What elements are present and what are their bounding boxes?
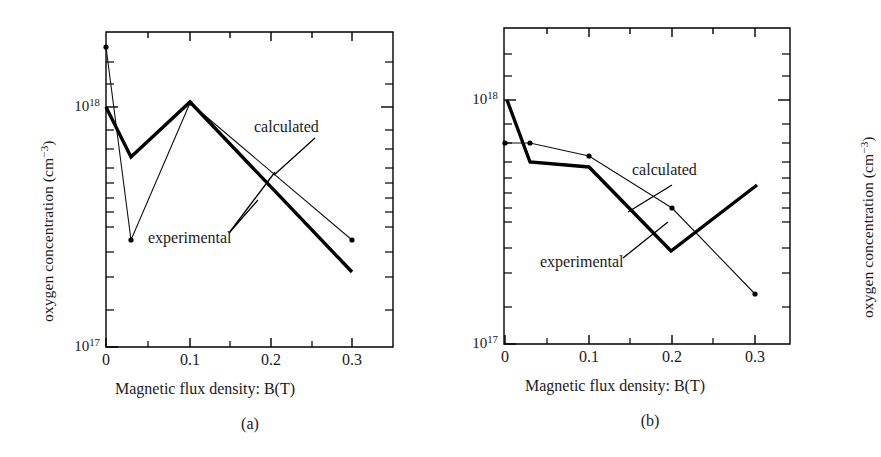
annotation-experimental-b: experimental <box>540 253 624 271</box>
y-tick-label-1e18-a: 1018 <box>44 96 100 115</box>
x-tick-label-01-b: 0.1 <box>567 348 611 366</box>
x-tick-label-0-b: 0 <box>483 348 527 366</box>
x-axis-top-ticks-b <box>547 28 755 37</box>
annotation-calculated-a: calculated <box>254 118 319 136</box>
axis-frame-b <box>504 28 790 344</box>
x-tick-label-01-a: 0.1 <box>168 351 212 369</box>
y-axis-label-b: oxygen concentration (cm−3) <box>858 136 877 318</box>
x-axis-minor-ticks-b <box>547 338 713 344</box>
x-tick-label-03-a: 0.3 <box>330 351 374 369</box>
x-tick-label-0-a: 0 <box>84 351 128 369</box>
series-calculated-line-b <box>505 143 755 294</box>
x-tick-label-03-b: 0.3 <box>733 348 777 366</box>
x-tick-label-02-b: 0.2 <box>650 348 694 366</box>
x-axis-label-b: Magnetic flux density: B(T) <box>410 377 820 395</box>
panel-caption-b: (b) <box>410 412 881 430</box>
y-axis-minor-ticks-right-a <box>385 62 393 310</box>
annotation-calculated-b: calculated <box>632 161 697 179</box>
y-axis-minor-ticks-left-b <box>504 54 512 307</box>
x-axis-label-a: Magnetic flux density: B(T) <box>0 380 410 398</box>
x-axis-major-ticks-a <box>106 338 352 347</box>
y-axis-label-a: oxygen concentration (cm−3) <box>38 140 57 322</box>
axis-frame-a <box>106 32 393 347</box>
x-axis-top-ticks-a <box>148 32 352 41</box>
x-tick-label-02-a: 0.2 <box>249 351 293 369</box>
annotation-experimental-a: experimental <box>148 229 232 247</box>
annotation-leaders-b <box>623 185 672 258</box>
y-tick-label-1e18-b: 1018 <box>442 89 498 108</box>
x-axis-minor-ticks-a <box>148 341 312 347</box>
y-axis-minor-ticks-right-b <box>782 54 790 307</box>
